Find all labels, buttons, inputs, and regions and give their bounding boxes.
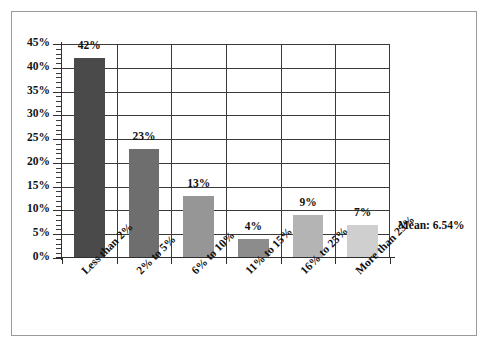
y-tick-minor — [56, 201, 61, 202]
y-axis-tick-label: 20% — [16, 155, 50, 167]
y-axis-tick-label: 0% — [16, 250, 50, 262]
y-tick-minor — [56, 253, 61, 254]
y-tick-major-10 — [53, 210, 62, 211]
y-tick-minor — [56, 239, 61, 240]
bar-value-label: 23% — [114, 130, 174, 142]
x-tick-5 — [335, 258, 336, 264]
y-tick-minor — [56, 111, 61, 112]
y-tick-minor — [56, 130, 61, 131]
gridline-x-2 — [171, 44, 172, 258]
y-axis-tick-label: 25% — [16, 131, 50, 143]
y-tick-minor — [56, 215, 61, 216]
y-tick-major-40 — [53, 68, 62, 69]
y-axis-tick-label: 15% — [16, 179, 50, 191]
y-tick-minor — [56, 220, 61, 221]
y-tick-major-15 — [53, 187, 62, 188]
y-tick-minor — [56, 149, 61, 150]
y-tick-minor — [56, 96, 61, 97]
y-tick-minor — [56, 153, 61, 154]
y-tick-minor — [56, 58, 61, 59]
y-tick-minor — [56, 77, 61, 78]
y-tick-minor — [56, 182, 61, 183]
x-tick-1 — [117, 258, 118, 264]
x-tick-2 — [171, 258, 172, 264]
y-tick-minor — [56, 168, 61, 169]
x-tick-4 — [281, 258, 282, 264]
y-tick-major-0 — [53, 258, 62, 259]
y-tick-minor — [56, 63, 61, 64]
y-tick-minor — [56, 229, 61, 230]
bar-value-label: 9% — [278, 196, 338, 208]
bar — [74, 58, 105, 258]
y-axis-tick-label: 45% — [16, 36, 50, 48]
gridline-x-1 — [117, 44, 118, 258]
y-tick-minor — [56, 177, 61, 178]
x-tick-0 — [62, 258, 63, 264]
y-tick-minor — [56, 120, 61, 121]
y-tick-minor — [56, 244, 61, 245]
y-tick-minor — [56, 101, 61, 102]
bar-value-label: 13% — [169, 177, 229, 189]
bar-value-label: 42% — [59, 39, 119, 51]
y-tick-minor — [56, 54, 61, 55]
y-tick-minor — [56, 82, 61, 83]
mean-annotation: Mean: 6.54% — [398, 219, 464, 231]
y-tick-minor — [56, 206, 61, 207]
y-tick-major-5 — [53, 234, 62, 235]
y-tick-minor — [56, 125, 61, 126]
gridline-x-5 — [335, 44, 336, 258]
y-tick-minor — [56, 196, 61, 197]
y-axis-line — [61, 42, 62, 260]
y-tick-minor — [56, 191, 61, 192]
bar-value-label: 4% — [223, 220, 283, 232]
y-tick-major-35 — [53, 92, 62, 93]
y-tick-minor — [56, 87, 61, 88]
y-tick-major-30 — [53, 115, 62, 116]
x-tick-3 — [226, 258, 227, 264]
y-axis-tick-label: 30% — [16, 107, 50, 119]
y-tick-minor — [56, 73, 61, 74]
y-axis-tick-label: 40% — [16, 60, 50, 72]
y-tick-major-25 — [53, 139, 62, 140]
y-tick-minor — [56, 158, 61, 159]
y-axis-tick-label: 5% — [16, 226, 50, 238]
y-tick-minor — [56, 248, 61, 249]
y-tick-minor — [56, 106, 61, 107]
y-tick-minor — [56, 144, 61, 145]
y-tick-minor — [56, 172, 61, 173]
y-tick-minor — [56, 134, 61, 135]
x-tick-6 — [390, 258, 391, 264]
y-axis-tick-label: 10% — [16, 202, 50, 214]
plot-right-border — [389, 44, 390, 258]
bar — [129, 149, 160, 258]
y-tick-minor — [56, 225, 61, 226]
chart-figure: 0%5%10%15%20%25%30%35%40%45% Less than 2… — [0, 0, 490, 348]
y-tick-major-20 — [53, 163, 62, 164]
bar-value-label: 7% — [333, 206, 393, 218]
y-axis-tick-label: 35% — [16, 84, 50, 96]
